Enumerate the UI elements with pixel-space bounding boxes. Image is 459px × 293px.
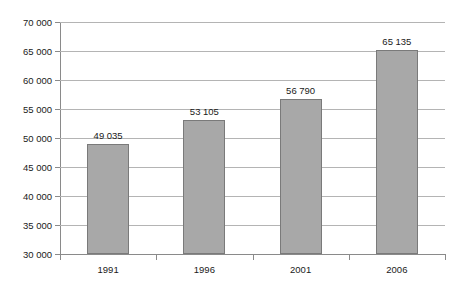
x-axis-tick-label: 1996 [194,264,215,275]
bar [183,120,225,254]
y-axis-tick-label: 70 000 [0,17,52,28]
bar [280,99,322,254]
x-axis-tick [60,254,61,260]
x-axis-tick [156,254,157,260]
bar [376,50,418,254]
gridline [60,22,445,23]
bar-value-label: 56 790 [286,85,315,96]
y-axis-tick-label: 30 000 [0,249,52,260]
x-axis-tick [253,254,254,260]
bar-value-label: 53 105 [190,106,219,117]
bar-value-label: 49 035 [94,130,123,141]
y-axis-tick-label: 65 000 [0,46,52,57]
bar-chart: 30 00035 00040 00045 00050 00055 00060 0… [0,0,459,293]
y-axis-tick-label: 50 000 [0,133,52,144]
y-axis-tick-label: 55 000 [0,104,52,115]
x-axis-tick-label: 1991 [98,264,119,275]
bar-value-label: 65 135 [382,36,411,47]
x-axis-tick [445,254,446,260]
x-axis-tick-label: 2006 [386,264,407,275]
x-axis-tick-label: 2001 [290,264,311,275]
y-axis-tick-label: 35 000 [0,220,52,231]
x-axis-tick [349,254,350,260]
y-axis-tick-label: 40 000 [0,191,52,202]
y-axis-tick-label: 45 000 [0,162,52,173]
bar [87,144,129,254]
y-axis-tick-label: 60 000 [0,75,52,86]
